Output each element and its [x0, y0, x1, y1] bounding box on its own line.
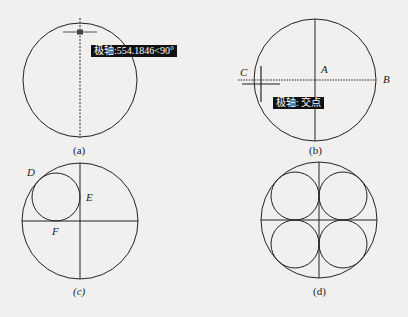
figure-d [261, 162, 377, 278]
caption-c: (c) [73, 285, 85, 297]
point-label-c: C [240, 66, 247, 78]
diagram-canvas [0, 0, 408, 317]
point-label-d: D [27, 166, 35, 178]
point-label-a: A [321, 63, 328, 75]
caption-d: (d) [313, 285, 326, 297]
inner-circle-bottom-right [319, 220, 367, 268]
caption-b: (b) [309, 144, 322, 156]
point-label-f: F [52, 225, 59, 237]
inner-circle-c [32, 173, 80, 221]
inner-circle-top-left [271, 172, 319, 220]
figure-c [22, 163, 138, 279]
snap-marker-a [78, 30, 83, 34]
point-label-e: E [86, 191, 93, 203]
figure-b [238, 19, 376, 141]
polar-tooltip-a: 极轴:554.1846<90° [91, 45, 177, 57]
polar-tooltip-b: 极轴: 交点 [273, 97, 324, 109]
figure-a [23, 18, 137, 138]
inner-circle-bottom-left [271, 220, 319, 268]
point-label-b: B [383, 73, 390, 85]
caption-a: (a) [73, 144, 85, 156]
inner-circle-top-right [319, 172, 367, 220]
